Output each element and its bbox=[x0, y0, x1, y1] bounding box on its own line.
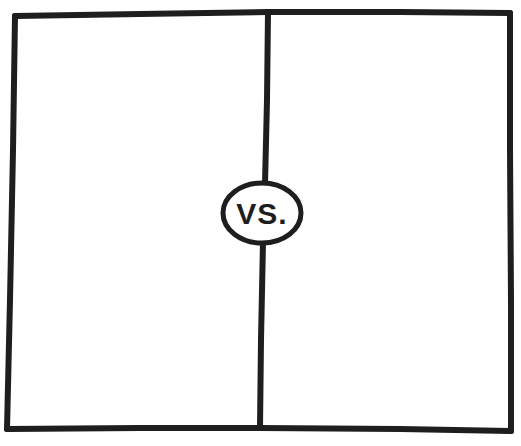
divider-lower bbox=[260, 242, 263, 428]
frame-right-edge bbox=[510, 13, 511, 431]
vs-badge: VS. bbox=[223, 183, 301, 243]
divider-upper bbox=[265, 12, 268, 184]
vs-label: VS. bbox=[236, 197, 287, 230]
vs-comparison-diagram: VS. bbox=[0, 0, 521, 446]
